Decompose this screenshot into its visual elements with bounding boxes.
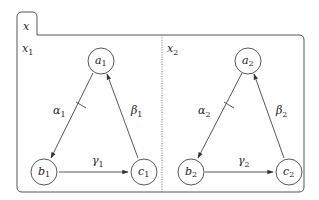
node-b2: b2	[178, 159, 204, 185]
panel-2-label: x2	[167, 42, 178, 57]
edge-label-alpha1: α1	[53, 104, 66, 119]
outer-tab: x	[17, 12, 37, 35]
edge-label-beta1: β1	[130, 104, 142, 119]
edge-label-gamma2: γ2	[238, 154, 250, 169]
edge-label-alpha2: α2	[198, 104, 211, 119]
panel-1-label: x1	[22, 42, 33, 57]
diagram-canvas: x x1 α1 γ1 β1 a1 b1 c1 x2	[0, 0, 319, 200]
edge-label-gamma1: γ1	[92, 154, 104, 169]
outer-label: x	[23, 20, 30, 33]
node-c2: c2	[276, 159, 302, 185]
node-a2: a2	[235, 48, 261, 74]
node-a1: a1	[88, 48, 114, 74]
panel-2: x2 α2 γ2 β2 a2 b2 c2	[167, 42, 302, 185]
panel-1: x1 α1 γ1 β1 a1 b1 c1	[22, 42, 157, 185]
node-c1: c1	[131, 159, 157, 185]
edge-label-beta2: β2	[275, 104, 287, 119]
node-b1: b1	[31, 159, 57, 185]
